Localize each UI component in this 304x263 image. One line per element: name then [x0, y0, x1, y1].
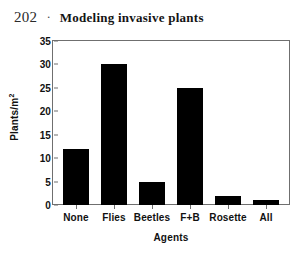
bar-slot	[57, 41, 95, 205]
bar-rosette[interactable]	[215, 196, 241, 205]
bar-f-b[interactable]	[177, 88, 203, 205]
x-axis-tick: All	[247, 205, 285, 231]
bar-chart-figure: Plants/m2 35302520151050 NoneFliesBeetle…	[0, 33, 304, 263]
y-axis-tick: 5	[45, 176, 53, 187]
bar-slot	[95, 41, 133, 205]
bar-none[interactable]	[63, 149, 89, 205]
x-axis-tick: Rosette	[209, 205, 247, 231]
plot-area: 35302520151050	[53, 41, 289, 205]
x-axis-tick-label: F+B	[180, 212, 199, 223]
x-axis-tick-mark	[228, 205, 229, 209]
x-axis-tick: F+B	[171, 205, 209, 231]
x-axis-ticks: NoneFliesBeetlesF+BRosetteAll	[53, 205, 289, 231]
page-number: 202	[14, 9, 37, 26]
y-axis-tick: 20	[40, 106, 53, 117]
x-axis-tick: None	[57, 205, 95, 231]
y-axis-tick-label: 30	[40, 59, 54, 70]
y-axis-tick: 25	[40, 82, 53, 93]
bar-slot	[133, 41, 171, 205]
x-axis-tick: Beetles	[133, 205, 171, 231]
bar-slot	[247, 41, 285, 205]
y-axis-tick: 30	[40, 59, 53, 70]
page-running-head: 202 · Modeling invasive plants	[14, 9, 204, 26]
x-axis-tick-mark	[266, 205, 267, 209]
bar-beetles[interactable]	[139, 182, 165, 205]
x-axis-tick-mark	[114, 205, 115, 209]
x-axis-tick-label: Flies	[102, 212, 125, 223]
y-axis-tick: 15	[40, 129, 53, 140]
x-axis-tick-label: Rosette	[209, 212, 246, 223]
y-axis-tick-label: 20	[40, 106, 54, 117]
chapter-title: Modeling invasive plants	[60, 10, 204, 26]
y-axis-tick-label: 15	[40, 129, 54, 140]
y-axis-tick-label: 25	[40, 82, 54, 93]
header-separator: ·	[46, 9, 50, 25]
y-axis-label-exponent: 2	[8, 93, 15, 97]
y-axis-label: Plants/m2	[8, 77, 20, 157]
x-axis-tick-mark	[190, 205, 191, 209]
bar-slot	[209, 41, 247, 205]
y-axis-tick-label: 10	[40, 153, 54, 164]
bar-series	[53, 41, 289, 205]
x-axis-tick-mark	[76, 205, 77, 209]
x-axis-label: Agents	[53, 232, 289, 243]
bar-slot	[171, 41, 209, 205]
y-axis-tick: 10	[40, 153, 53, 164]
y-axis-label-text: Plants/m	[9, 98, 20, 141]
x-axis-tick-mark	[152, 205, 153, 209]
x-axis-tick-label: None	[63, 212, 88, 223]
y-axis-tick: 35	[40, 36, 53, 47]
x-axis-tick-label: All	[259, 212, 272, 223]
x-axis-tick-label: Beetles	[134, 212, 170, 223]
x-axis-tick: Flies	[95, 205, 133, 231]
y-axis-tick: 0	[45, 200, 53, 211]
bar-flies[interactable]	[101, 64, 127, 205]
y-axis-tick-label: 35	[40, 36, 54, 47]
